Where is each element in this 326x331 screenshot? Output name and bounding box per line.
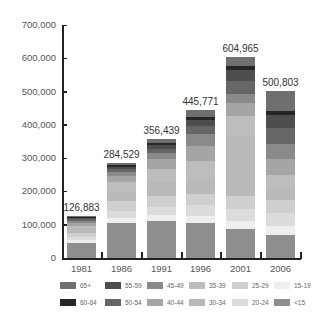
bar-segment xyxy=(147,207,176,214)
bar-segment xyxy=(147,221,176,258)
stacked-bar-chart: 0100,000200,000300,000400,000500,000600,… xyxy=(0,0,326,331)
bar-segment xyxy=(107,182,136,191)
legend-item-50-54: 50-54 xyxy=(105,299,142,306)
bar-segment xyxy=(186,110,215,117)
legend-item-35-39: 35-39 xyxy=(189,282,226,289)
bar-segment xyxy=(147,196,176,208)
y-tick-label: 300,000 xyxy=(4,152,56,163)
bar-segment xyxy=(226,229,255,258)
bar-segment xyxy=(266,91,295,110)
bar-segment xyxy=(147,159,176,168)
y-tick-mark xyxy=(62,25,67,27)
legend-label: 30-34 xyxy=(209,299,226,306)
bar-total-label: 126,883 xyxy=(54,202,110,213)
y-tick-label: 100,000 xyxy=(4,219,56,230)
bar-segment xyxy=(266,200,295,213)
legend-item-45-49: 45-49 xyxy=(147,282,184,289)
y-tick-label: 200,000 xyxy=(4,185,56,196)
legend-label: 40-44 xyxy=(167,299,184,306)
bar-segment xyxy=(107,201,136,211)
legend-label: 15-19 xyxy=(294,282,311,289)
bar-segment xyxy=(107,191,136,202)
x-tick-mark xyxy=(220,252,222,259)
legend-swatch xyxy=(232,282,248,289)
y-tick-mark xyxy=(62,91,67,93)
bar-segment xyxy=(186,179,215,194)
y-tick-label: 600,000 xyxy=(4,52,56,63)
bar-segment xyxy=(266,189,295,201)
bar-total-label: 356,439 xyxy=(134,125,190,136)
bar-segment xyxy=(226,81,255,94)
legend-swatch xyxy=(147,282,163,289)
bar-1981 xyxy=(67,216,96,258)
bar-segment xyxy=(186,134,215,146)
legend-swatch xyxy=(60,282,76,289)
bar-segment xyxy=(266,235,295,258)
bar-segment xyxy=(226,116,255,136)
y-tick-label: 400,000 xyxy=(4,119,56,130)
bar-segment xyxy=(266,226,295,234)
x-tick-mark xyxy=(181,252,183,259)
x-tick-label: 2006 xyxy=(261,263,301,274)
bar-segment xyxy=(266,175,295,188)
bar-segment xyxy=(186,161,215,179)
bar-segment xyxy=(266,159,295,176)
legend-swatch xyxy=(60,299,76,306)
bar-1991 xyxy=(147,139,176,258)
bar-segment xyxy=(147,169,176,183)
bar-segment xyxy=(147,153,176,160)
bar-segment xyxy=(147,182,176,195)
bar-total-label: 445,771 xyxy=(173,96,229,107)
legend-swatch xyxy=(189,282,205,289)
y-tick-label: 500,000 xyxy=(4,86,56,97)
legend-label: 55-59 xyxy=(125,282,142,289)
legend-item-55-59: 55-59 xyxy=(105,282,142,289)
bar-segment xyxy=(226,94,255,103)
bar-segment xyxy=(266,213,295,226)
legend-label: 65+ xyxy=(80,282,91,289)
legend-label: 25-29 xyxy=(252,282,269,289)
legend-item-40-44: 40-44 xyxy=(147,299,184,306)
legend-item-20-24: 20-24 xyxy=(232,299,269,306)
bar-segment xyxy=(107,223,136,258)
x-tick-label: 1986 xyxy=(102,263,142,274)
y-tick-mark xyxy=(62,158,67,160)
bar-segment xyxy=(226,221,255,228)
legend-item-60-64: 60-64 xyxy=(60,299,97,306)
x-tick-mark xyxy=(260,252,262,259)
bar-segment xyxy=(186,194,215,205)
legend-label: 20-24 xyxy=(252,299,269,306)
legend-swatch xyxy=(189,299,205,306)
bar-segment xyxy=(186,216,215,223)
legend-item-65plus: 65+ xyxy=(60,282,91,289)
legend-label: 35-39 xyxy=(209,282,226,289)
legend-item-under-15: <15 xyxy=(274,299,305,306)
bar-segment xyxy=(186,223,215,258)
x-tick-mark xyxy=(300,252,302,259)
bar-segment xyxy=(266,144,295,159)
legend-swatch xyxy=(105,299,121,306)
y-tick-mark xyxy=(62,58,67,60)
bar-total-label: 604,965 xyxy=(213,43,269,54)
bar-segment xyxy=(266,115,295,128)
legend-swatch xyxy=(274,299,290,306)
legend-label: 45-49 xyxy=(167,282,184,289)
bar-segment xyxy=(186,205,215,216)
bar-segment xyxy=(67,243,96,258)
legend-swatch xyxy=(232,299,248,306)
legend-swatch xyxy=(105,282,121,289)
legend-label: 50-54 xyxy=(125,299,142,306)
legend-swatch xyxy=(147,299,163,306)
x-tick-mark xyxy=(101,252,103,259)
legend-item-30-34: 30-34 xyxy=(189,299,226,306)
bar-total-label: 500,803 xyxy=(253,77,309,88)
legend-label: 60-64 xyxy=(80,299,97,306)
bar-segment xyxy=(107,211,136,218)
legend-item-25-29: 25-29 xyxy=(232,282,269,289)
bar-segment xyxy=(226,136,255,196)
bar-2001 xyxy=(226,57,255,258)
bar-segment xyxy=(226,103,255,116)
y-tick-label: 0 xyxy=(4,252,56,263)
x-tick-mark xyxy=(141,252,143,259)
legend-label: <15 xyxy=(294,299,305,306)
